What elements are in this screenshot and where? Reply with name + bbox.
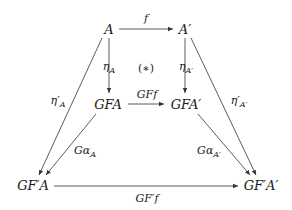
node-gfa: GFA: [94, 98, 122, 111]
label-eta-a-prime: ηA′: [179, 61, 193, 75]
node-gfpa-prime: GF′A′: [244, 179, 279, 192]
label-eta-prime-a-sub: A: [60, 100, 66, 109]
label-gfpf: GF′f: [136, 193, 159, 204]
label-eta-prime-a-prime-sub: A′: [240, 100, 248, 109]
label-f: f: [144, 13, 148, 24]
label-gff: GFf: [137, 89, 158, 100]
label-eta-prime-a: η′A: [51, 95, 66, 109]
label-eta-prime-a-prime-main: η′: [231, 94, 240, 107]
label-eta-a-main: η: [103, 60, 110, 73]
label-g-alpha-a-prime-sub: A′: [213, 150, 221, 159]
label-eta-prime-a-main: η′: [51, 94, 60, 107]
node-a: A: [104, 23, 113, 36]
label-g-alpha-a-prime-main: Gα: [197, 144, 213, 157]
annotation-star: (∗): [138, 63, 154, 74]
node-a-prime: A′: [179, 23, 191, 36]
label-eta-a-prime-sub: A′: [186, 66, 194, 75]
label-g-alpha-a-main: Gα: [74, 144, 90, 157]
label-eta-prime-a-prime: η′A′: [231, 95, 248, 109]
label-eta-a: ηA: [103, 61, 115, 75]
label-g-alpha-a: GαA: [74, 145, 96, 159]
node-gfa-prime: GFA′: [171, 98, 202, 111]
label-g-alpha-a-prime: GαA′: [197, 145, 221, 159]
label-eta-a-sub: A: [109, 66, 115, 75]
label-g-alpha-a-sub: A: [90, 150, 96, 159]
label-eta-a-prime-main: η: [179, 60, 186, 73]
node-gfpa: GF′A: [17, 179, 49, 192]
